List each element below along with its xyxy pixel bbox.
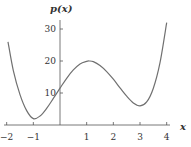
x-tick-label: 1 [84, 132, 90, 142]
x-tick-label: 2 [110, 132, 116, 142]
polynomial-curve [8, 23, 167, 119]
x-tick-label: −1 [27, 132, 40, 142]
chart-canvas: −2−11234 102030 p(x) x [0, 0, 191, 147]
x-axis-title: x [179, 121, 187, 132]
x-tick-label: 3 [137, 132, 143, 142]
axes: −2−11234 102030 [0, 20, 170, 142]
y-tick-label: 20 [45, 56, 57, 66]
y-tick-label: 30 [45, 24, 57, 34]
x-tick-label: −2 [0, 132, 13, 142]
y-axis-title: p(x) [50, 3, 73, 14]
x-tick-label: 4 [164, 132, 170, 142]
